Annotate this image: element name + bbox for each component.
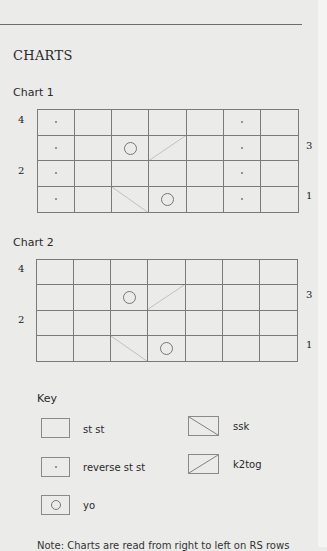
chart-cell bbox=[186, 311, 223, 336]
chart-cell bbox=[187, 187, 224, 213]
chart-cell bbox=[149, 110, 186, 136]
ssk-symbol-icon bbox=[188, 416, 219, 436]
chart-cell bbox=[38, 187, 75, 213]
chart-cell bbox=[148, 336, 185, 361]
chart-cell bbox=[260, 285, 297, 310]
chart-cell bbox=[223, 311, 260, 336]
circle-icon bbox=[124, 142, 137, 155]
dot-icon bbox=[55, 198, 57, 200]
chart-cell bbox=[224, 161, 261, 187]
chart-2-row-label-2: 2 bbox=[18, 314, 24, 325]
chart-cell bbox=[112, 187, 149, 213]
page-edge bbox=[318, 0, 327, 547]
chart-cell bbox=[37, 311, 74, 336]
key-label-st-st: st st bbox=[83, 424, 104, 435]
chart-2-row-label-4: 4 bbox=[18, 263, 24, 274]
chart-cell bbox=[148, 285, 185, 310]
chart-1-row-label-3: 3 bbox=[306, 140, 312, 151]
chart-cell bbox=[261, 136, 298, 162]
chart-1-grid bbox=[37, 109, 299, 213]
chart-1-row-label-2: 2 bbox=[18, 165, 24, 176]
chart-cell bbox=[112, 110, 149, 136]
key-label-yo: yo bbox=[83, 500, 95, 511]
chart-cell bbox=[260, 336, 297, 361]
k2tog-symbol-icon bbox=[188, 454, 219, 474]
chart-cell bbox=[75, 110, 112, 136]
chart-2-label: Chart 2 bbox=[13, 236, 54, 249]
chart-cell bbox=[111, 260, 148, 285]
key-label-k2tog: k2tog bbox=[233, 459, 262, 470]
yo-symbol-icon bbox=[41, 495, 70, 515]
reverse-st-st-symbol-icon bbox=[41, 457, 70, 477]
dot-icon bbox=[241, 172, 243, 174]
key-label-reverse-st-st: reverse st st bbox=[83, 462, 145, 473]
chart-cell bbox=[37, 285, 74, 310]
chart-2-grid bbox=[36, 259, 298, 362]
header-rule bbox=[0, 24, 302, 25]
diagonal-up-icon bbox=[148, 285, 184, 309]
chart-cell bbox=[260, 260, 297, 285]
circle-icon bbox=[160, 342, 173, 355]
chart-cell bbox=[38, 136, 75, 162]
chart-note: Note: Charts are read from right to left… bbox=[37, 540, 289, 551]
chart-cell bbox=[37, 260, 74, 285]
chart-cell bbox=[112, 161, 149, 187]
chart-cell bbox=[224, 136, 261, 162]
chart-cell bbox=[149, 161, 186, 187]
chart-cell bbox=[75, 161, 112, 187]
chart-cell bbox=[74, 285, 111, 310]
chart-cell bbox=[38, 161, 75, 187]
chart-cell bbox=[224, 187, 261, 213]
chart-cell bbox=[74, 260, 111, 285]
circle-icon bbox=[161, 193, 174, 206]
key-label-ssk: ssk bbox=[233, 421, 249, 432]
chart-1-row-label-4: 4 bbox=[18, 114, 24, 125]
chart-1-row-label-1: 1 bbox=[306, 190, 312, 201]
chart-cell bbox=[111, 311, 148, 336]
chart-cell bbox=[74, 336, 111, 361]
chart-cell bbox=[75, 187, 112, 213]
chart-cell bbox=[111, 336, 148, 361]
chart-cell bbox=[187, 161, 224, 187]
diagonal-down-icon bbox=[111, 336, 147, 361]
chart-cell bbox=[261, 187, 298, 213]
dot-icon bbox=[241, 121, 243, 123]
chart-cell bbox=[187, 136, 224, 162]
diagonal-down-icon bbox=[112, 187, 148, 213]
dot-icon bbox=[241, 147, 243, 149]
chart-cell bbox=[38, 110, 75, 136]
chart-cell bbox=[260, 311, 297, 336]
chart-cell bbox=[37, 336, 74, 361]
chart-cell bbox=[148, 311, 185, 336]
chart-cell bbox=[111, 285, 148, 310]
chart-2-row-label-1: 1 bbox=[306, 339, 312, 350]
chart-cell bbox=[74, 311, 111, 336]
chart-cell bbox=[223, 336, 260, 361]
chart-cell bbox=[149, 136, 186, 162]
chart-cell bbox=[223, 260, 260, 285]
diagonal-up-icon bbox=[149, 136, 185, 161]
chart-cell bbox=[261, 110, 298, 136]
chart-cell bbox=[75, 136, 112, 162]
dot-icon bbox=[55, 121, 57, 123]
dot-icon bbox=[55, 172, 57, 174]
chart-cell bbox=[187, 110, 224, 136]
chart-cell bbox=[186, 260, 223, 285]
chart-cell bbox=[223, 285, 260, 310]
chart-cell bbox=[186, 336, 223, 361]
st-st-symbol-icon bbox=[41, 418, 70, 438]
chart-2-row-label-3: 3 bbox=[306, 289, 312, 300]
chart-cell bbox=[224, 110, 261, 136]
chart-cell bbox=[149, 187, 186, 213]
dot-icon bbox=[241, 198, 243, 200]
key-title: Key bbox=[37, 392, 57, 405]
chart-cell bbox=[186, 285, 223, 310]
chart-cell bbox=[148, 260, 185, 285]
circle-icon bbox=[123, 291, 136, 304]
dot-icon bbox=[55, 147, 57, 149]
chart-cell bbox=[112, 136, 149, 162]
section-title: CHARTS bbox=[13, 48, 73, 63]
chart-cell bbox=[261, 161, 298, 187]
chart-1-label: Chart 1 bbox=[13, 86, 54, 99]
